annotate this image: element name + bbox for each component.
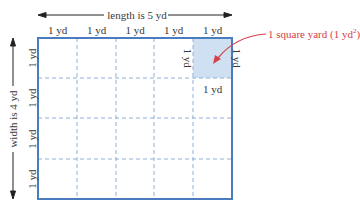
unit-square-left-label: 1 yd	[182, 38, 194, 78]
unit-square-right-label: 1 yd	[231, 38, 243, 78]
row-label: 1 yd	[26, 159, 38, 199]
row-label: 1 yd	[26, 119, 38, 159]
row-label: 1 yd	[26, 78, 38, 118]
column-label: 1 yd	[77, 24, 116, 36]
column-label: 1 yd	[116, 24, 154, 36]
callout-close: )	[356, 28, 360, 40]
column-label: 1 yd	[154, 24, 193, 36]
unit-square-highlight	[193, 38, 232, 78]
column-label: 1 yd	[193, 24, 232, 36]
length-label: length is 5 yd	[106, 9, 168, 21]
width-label: width is 4 yd	[7, 84, 19, 154]
column-label: 1 yd	[38, 24, 77, 36]
callout-label: 1 square yard (1 yd2)	[268, 28, 360, 40]
unit-square-bottom-label: 1 yd	[193, 83, 232, 95]
row-label: 1 yd	[26, 38, 38, 78]
callout-text: 1 square yard (1 yd	[268, 28, 353, 40]
